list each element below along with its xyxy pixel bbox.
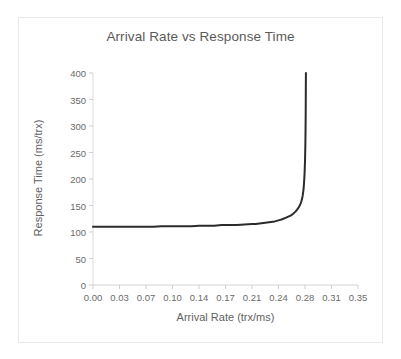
x-axis-tick-label: 0.00 [84, 292, 103, 303]
response-time-curve [93, 73, 306, 227]
y-axis-tick-label: 150 [52, 200, 86, 211]
chart-screenshot: Arrival Rate vs Response Time 0501001502… [0, 0, 401, 359]
y-axis-tick-label: 350 [52, 94, 86, 105]
x-axis-title: Arrival Rate (trx/ms) [93, 311, 358, 323]
x-axis-tick-label: 0.03 [110, 292, 129, 303]
axis-lines [93, 73, 358, 285]
x-axis-tick-label: 0.17 [216, 292, 235, 303]
x-axis-tick-label: 0.21 [243, 292, 262, 303]
y-axis-ticks [89, 73, 93, 285]
y-axis-title: Response Time (ms/trx) [32, 78, 44, 278]
y-axis-tick-label: 100 [52, 227, 86, 238]
x-axis-tick-label: 0.07 [137, 292, 156, 303]
x-axis-tick-label: 0.31 [322, 292, 341, 303]
y-axis-tick-label: 400 [52, 68, 86, 79]
y-axis-tick-label: 50 [52, 253, 86, 264]
y-axis-tick-label: 0 [52, 280, 86, 291]
x-axis-tick-label: 0.28 [296, 292, 315, 303]
y-axis-tick-label: 300 [52, 121, 86, 132]
x-axis-tick-label: 0.35 [349, 292, 368, 303]
x-axis-tick-label: 0.14 [190, 292, 209, 303]
x-axis-ticks [93, 285, 358, 289]
x-axis-tick-label: 0.10 [163, 292, 182, 303]
x-axis-tick-label: 0.24 [269, 292, 288, 303]
y-axis-tick-label: 200 [52, 174, 86, 185]
y-axis-tick-label: 250 [52, 147, 86, 158]
